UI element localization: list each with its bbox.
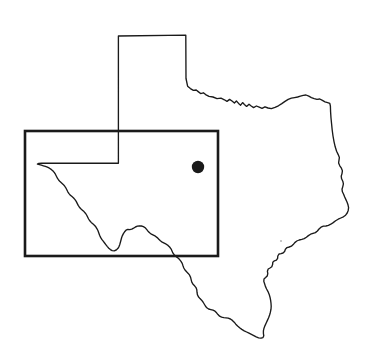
site-marker-dot: [192, 161, 204, 173]
texas-map-canvas: [0, 0, 377, 357]
texas-state-boundary-path: [37, 35, 348, 338]
map-figure: Texas state outline map with study area …: [0, 0, 377, 357]
coast-speck-artifact: [280, 240, 282, 242]
